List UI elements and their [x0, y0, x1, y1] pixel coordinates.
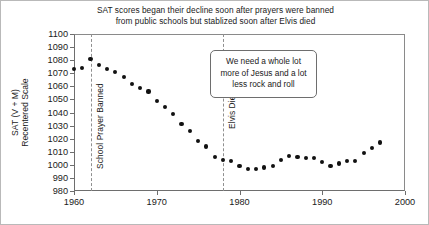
callout-line-2: more of Jesus and a lot — [215, 68, 312, 80]
data-point — [146, 89, 150, 93]
data-point — [188, 129, 192, 133]
data-point — [213, 155, 217, 159]
y-tick-label: 980 — [53, 186, 68, 196]
data-point — [155, 99, 159, 103]
data-point — [254, 167, 258, 171]
data-point — [378, 140, 382, 144]
callout-line-1: We need a whole lot — [215, 56, 312, 68]
y-tick-mark — [70, 178, 74, 179]
y-tick-label: 1020 — [48, 134, 68, 144]
x-tick-mark — [240, 191, 241, 195]
y-tick-label: 1100 — [48, 29, 68, 39]
x-tick-mark — [322, 191, 323, 195]
chart-title: SAT scores began their decline soon afte… — [1, 5, 429, 27]
data-point — [130, 82, 134, 86]
y-tick-label: 1000 — [48, 160, 68, 170]
data-point — [88, 57, 92, 61]
y-tick-label: 1060 — [48, 81, 68, 91]
y-tick-mark — [70, 99, 74, 100]
callout-line-3: less rock and roll — [215, 79, 312, 91]
data-point — [179, 122, 183, 126]
x-tick-label: 1990 — [312, 197, 332, 207]
x-tick-mark — [74, 191, 75, 195]
y-tick-label: 1090 — [48, 42, 68, 52]
x-tick-mark — [405, 191, 406, 195]
y-axis-label-line-2: Recentered Scale — [20, 78, 30, 146]
y-tick-mark — [70, 152, 74, 153]
chart-figure: SAT scores began their decline soon afte… — [0, 0, 429, 225]
x-tick-label: 1960 — [64, 197, 84, 207]
data-point — [237, 164, 241, 168]
data-point — [122, 75, 126, 79]
y-tick-mark — [70, 34, 74, 35]
x-tick-label: 1980 — [229, 197, 249, 207]
data-point — [295, 155, 299, 159]
y-tick-label: 1080 — [48, 55, 68, 65]
y-tick-mark — [70, 113, 74, 114]
x-tick-label: 1970 — [147, 197, 167, 207]
data-point — [262, 165, 266, 169]
commentary-callout: We need a whole lot more of Jesus and a … — [210, 50, 317, 98]
data-point — [370, 146, 374, 150]
y-tick-label: 1030 — [48, 121, 68, 131]
data-point — [328, 164, 332, 168]
data-point — [362, 151, 366, 155]
data-point — [138, 86, 142, 90]
x-tick-mark — [157, 191, 158, 195]
y-tick-label: 1070 — [48, 68, 68, 78]
y-tick-label: 990 — [53, 173, 68, 183]
data-point — [287, 154, 291, 158]
chart-title-line-2: from public schools but stablized soon a… — [1, 16, 429, 27]
event-label-school-prayer-banned: School Prayer Banned — [95, 83, 105, 169]
y-tick-mark — [70, 139, 74, 140]
data-point — [337, 161, 341, 165]
data-point — [246, 167, 250, 171]
y-tick-label: 1010 — [48, 147, 68, 157]
y-tick-mark — [70, 73, 74, 74]
y-tick-mark — [70, 47, 74, 48]
y-axis-label-line-1: SAT (V + M) — [10, 89, 20, 136]
y-tick-mark — [70, 126, 74, 127]
data-point — [271, 164, 275, 168]
y-tick-label: 1040 — [48, 108, 68, 118]
data-point — [279, 158, 283, 162]
y-tick-mark — [70, 86, 74, 87]
y-tick-label: 1050 — [48, 94, 68, 104]
data-point — [221, 158, 225, 162]
y-tick-mark — [70, 60, 74, 61]
chart-title-line-1: SAT scores began their decline soon afte… — [1, 5, 429, 16]
x-tick-label: 2000 — [395, 197, 415, 207]
y-tick-mark — [70, 165, 74, 166]
y-axis-label: SAT (V + M) Recentered Scale — [9, 34, 31, 191]
